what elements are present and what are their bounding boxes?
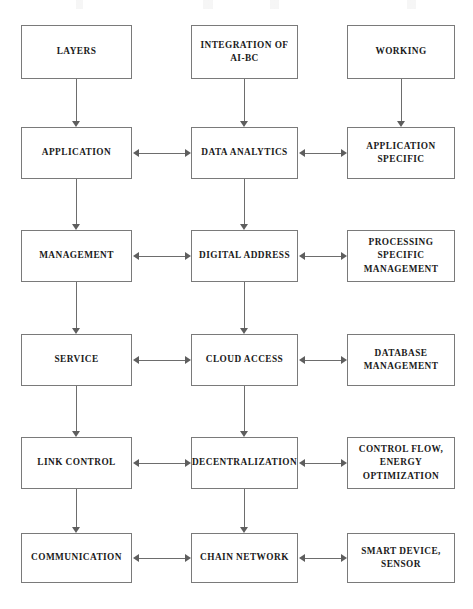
node-application-specific[interactable]: APPLICATIONSPECIFIC xyxy=(347,127,455,179)
node-label-line: SPECIFIC xyxy=(366,153,435,166)
edge-link-control-to-communication-arrowhead-down xyxy=(72,527,80,533)
node-label: CHAIN NETWORK xyxy=(200,551,289,564)
node-link-control[interactable]: LINK CONTROL xyxy=(21,437,132,489)
edge-management-to-digital-address-line xyxy=(137,256,186,257)
node-label-line: CHAIN NETWORK xyxy=(200,551,289,564)
edge-management-to-digital-address-arrowhead-left xyxy=(133,252,139,260)
node-label: CLOUD ACCESS xyxy=(206,353,283,366)
edge-digital-address-to-processing-specific-management-line xyxy=(303,256,342,257)
node-management[interactable]: MANAGEMENT xyxy=(21,230,132,282)
node-label: CONTROL FLOW,ENERGYOPTIMIZATION xyxy=(359,443,444,483)
node-label: INTEGRATION OFAI-BC xyxy=(200,39,288,66)
page-top-artifact-strip xyxy=(0,0,473,9)
node-label-line: APPLICATION xyxy=(366,140,435,153)
node-label-line: SMART DEVICE, xyxy=(361,545,441,558)
edge-service-to-link-control-line xyxy=(76,386,77,432)
edge-link-control-to-decentralization-line xyxy=(137,463,186,464)
node-chain-network[interactable]: CHAIN NETWORK xyxy=(191,533,298,583)
edge-decentralization-to-control-flow-energy-optimization-arrowhead-right xyxy=(341,459,347,467)
node-label-line: DATABASE xyxy=(364,347,439,360)
edge-working-to-application-specific-line xyxy=(401,79,402,122)
edge-integration-of-ai-bc-to-data-analytics-line xyxy=(244,79,245,122)
node-label: LAYERS xyxy=(57,45,97,58)
edge-service-to-cloud-access-line xyxy=(137,360,186,361)
node-integration-of-ai-bc[interactable]: INTEGRATION OFAI-BC xyxy=(191,25,298,79)
edge-layers-to-application-line xyxy=(76,79,77,122)
edge-application-to-data-analytics-line xyxy=(137,153,186,154)
edge-cloud-access-to-decentralization-arrowhead-down xyxy=(240,431,248,437)
edge-management-to-service-arrowhead-down xyxy=(72,328,80,334)
edge-communication-to-chain-network-arrowhead-left xyxy=(133,554,139,562)
node-label-line: COMMUNICATION xyxy=(31,551,122,564)
edge-application-to-management-arrowhead-down xyxy=(72,224,80,230)
edge-cloud-access-to-database-management-arrowhead-left xyxy=(299,356,305,364)
node-digital-address[interactable]: DIGITAL ADDRESS xyxy=(191,230,298,282)
edge-data-analytics-to-application-specific-arrowhead-right xyxy=(341,149,347,157)
edge-management-to-service-line xyxy=(76,282,77,329)
node-label: SERVICE xyxy=(54,353,98,366)
edge-decentralization-to-control-flow-energy-optimization-arrowhead-left xyxy=(299,459,305,467)
node-layers[interactable]: LAYERS xyxy=(21,25,132,79)
node-label: DATABASEMANAGEMENT xyxy=(364,347,439,374)
edge-link-control-to-decentralization-arrowhead-left xyxy=(133,459,139,467)
node-application[interactable]: APPLICATION xyxy=(21,127,132,179)
edge-chain-network-to-smart-device-sensor-line xyxy=(303,558,342,559)
node-label: DECENTRALIZATION xyxy=(192,456,297,469)
node-cloud-access[interactable]: CLOUD ACCESS xyxy=(191,334,298,386)
node-label: LINK CONTROL xyxy=(37,456,116,469)
edge-data-analytics-to-application-specific-arrowhead-left xyxy=(299,149,305,157)
edge-chain-network-to-smart-device-sensor-arrowhead-right xyxy=(341,554,347,562)
node-label-line: LAYERS xyxy=(57,45,97,58)
node-label-line: MANAGEMENT xyxy=(364,360,439,373)
node-label-line: SPECIFIC xyxy=(364,249,439,262)
node-label-line: LINK CONTROL xyxy=(37,456,116,469)
node-processing-specific-management[interactable]: PROCESSINGSPECIFICMANAGEMENT xyxy=(347,230,455,282)
node-label: MANAGEMENT xyxy=(39,249,114,262)
edge-decentralization-to-control-flow-energy-optimization-line xyxy=(303,463,342,464)
edge-application-to-management-line xyxy=(76,179,77,225)
edge-digital-address-to-cloud-access-line xyxy=(244,282,245,329)
node-label-line: SENSOR xyxy=(361,558,441,571)
edge-layers-to-application-arrowhead-down xyxy=(72,121,80,127)
node-decentralization[interactable]: DECENTRALIZATION xyxy=(191,437,298,489)
edge-communication-to-chain-network-arrowhead-right xyxy=(185,554,191,562)
node-smart-device-sensor[interactable]: SMART DEVICE,SENSOR xyxy=(347,533,455,583)
node-label: DIGITAL ADDRESS xyxy=(199,249,290,262)
edge-decentralization-to-chain-network-line xyxy=(244,489,245,528)
edge-integration-of-ai-bc-to-data-analytics-arrowhead-down xyxy=(240,121,248,127)
node-label: DATA ANALYTICS xyxy=(201,146,287,159)
node-label-line: DECENTRALIZATION xyxy=(192,456,297,469)
edge-digital-address-to-processing-specific-management-arrowhead-right xyxy=(341,252,347,260)
node-label: SMART DEVICE,SENSOR xyxy=(361,545,441,572)
node-communication[interactable]: COMMUNICATION xyxy=(21,533,132,583)
node-label-line: MANAGEMENT xyxy=(39,249,114,262)
edge-service-to-link-control-arrowhead-down xyxy=(72,431,80,437)
node-label-line: PROCESSING xyxy=(364,236,439,249)
node-label: APPLICATION xyxy=(42,146,111,159)
node-label-line: WORKING xyxy=(375,45,426,58)
edge-application-to-data-analytics-arrowhead-right xyxy=(185,149,191,157)
edge-management-to-digital-address-arrowhead-right xyxy=(185,252,191,260)
node-label-line: SERVICE xyxy=(54,353,98,366)
node-label: WORKING xyxy=(375,45,426,58)
node-label-line: CLOUD ACCESS xyxy=(206,353,283,366)
edge-digital-address-to-cloud-access-arrowhead-down xyxy=(240,328,248,334)
node-data-analytics[interactable]: DATA ANALYTICS xyxy=(191,127,298,179)
node-control-flow-energy-optimization[interactable]: CONTROL FLOW,ENERGYOPTIMIZATION xyxy=(347,437,455,489)
node-label-line: MANAGEMENT xyxy=(364,263,439,276)
node-database-management[interactable]: DATABASEMANAGEMENT xyxy=(347,334,455,386)
edge-decentralization-to-chain-network-arrowhead-down xyxy=(240,527,248,533)
node-label-line: CONTROL FLOW, xyxy=(359,443,444,456)
node-label-line: DATA ANALYTICS xyxy=(201,146,287,159)
node-label-line: ENERGY xyxy=(359,456,444,469)
node-service[interactable]: SERVICE xyxy=(21,334,132,386)
edge-data-analytics-to-digital-address-arrowhead-down xyxy=(240,224,248,230)
edge-service-to-cloud-access-arrowhead-right xyxy=(185,356,191,364)
node-label: APPLICATIONSPECIFIC xyxy=(366,140,435,167)
edge-digital-address-to-processing-specific-management-arrowhead-left xyxy=(299,252,305,260)
edge-cloud-access-to-database-management-arrowhead-right xyxy=(341,356,347,364)
edge-working-to-application-specific-arrowhead-down xyxy=(397,121,405,127)
node-label: PROCESSINGSPECIFICMANAGEMENT xyxy=(364,236,439,276)
node-label-line: INTEGRATION OF xyxy=(200,39,288,52)
node-working[interactable]: WORKING xyxy=(347,25,455,79)
